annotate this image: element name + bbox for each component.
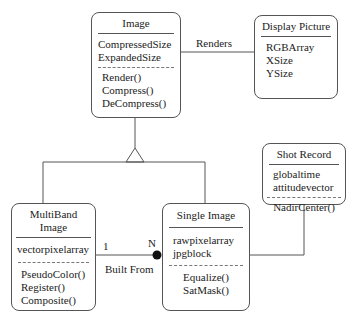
class-image[interactable]: Image CompressedSize ExpandedSize Render… bbox=[91, 12, 181, 118]
class-shot-record-operations: NadirCenter() bbox=[267, 197, 341, 217]
operation: PseudoColor() bbox=[21, 268, 83, 281]
class-display-picture-attributes: RGBArray XSize YSize bbox=[255, 37, 337, 83]
generalization-triangle-icon bbox=[126, 148, 144, 162]
class-multiband-image-title: MultiBand Image bbox=[16, 204, 91, 238]
operation: DeCompress() bbox=[102, 97, 168, 110]
class-single-image-operations: Equalize() SatMask() bbox=[169, 265, 243, 300]
attribute: globaltime bbox=[273, 168, 339, 181]
class-shot-record-title: Shot Record bbox=[269, 144, 339, 165]
aggregation-dot-icon bbox=[153, 251, 162, 260]
class-image-attributes: CompressedSize ExpandedSize bbox=[92, 34, 180, 67]
class-shot-record-attributes: globaltime attitudevector bbox=[263, 165, 345, 197]
attribute: ExpandedSize bbox=[98, 51, 174, 64]
operation: Composite() bbox=[21, 294, 83, 307]
operation: Compress() bbox=[102, 84, 168, 97]
attribute: attitudevector bbox=[273, 181, 339, 194]
operation: Register() bbox=[21, 281, 83, 294]
multiplicity-n-label: N bbox=[148, 237, 156, 249]
operation: NadirCenter() bbox=[267, 201, 341, 214]
attribute: rawpixelarray bbox=[173, 234, 243, 247]
class-image-operations: Render() Compress() DeCompress() bbox=[98, 67, 174, 113]
operation: Equalize() bbox=[169, 271, 243, 284]
attribute: CompressedSize bbox=[98, 38, 174, 51]
multiplicity-one-label: 1 bbox=[103, 240, 109, 252]
class-multiband-image-operations: PseudoColor() Register() Composite() bbox=[18, 262, 89, 310]
attribute: RGBArray bbox=[266, 41, 331, 54]
class-image-title: Image bbox=[98, 13, 174, 34]
class-display-picture-title: Display Picture bbox=[261, 16, 331, 37]
renders-label: Renders bbox=[196, 37, 232, 49]
attribute: vectorpixelarray bbox=[17, 243, 89, 256]
attribute: YSize bbox=[266, 67, 331, 80]
built-from-label: Built From bbox=[105, 263, 154, 275]
operation: SatMask() bbox=[169, 284, 243, 297]
class-single-image-title: Single Image bbox=[169, 204, 243, 228]
class-shot-record[interactable]: Shot Record globaltime attitudevector Na… bbox=[262, 143, 346, 205]
class-single-image[interactable]: Single Image rawpixelarray jpgblock Equa… bbox=[162, 203, 250, 311]
class-single-image-attributes: rawpixelarray jpgblock bbox=[163, 228, 249, 265]
attribute: XSize bbox=[266, 54, 331, 67]
class-display-picture[interactable]: Display Picture RGBArray XSize YSize bbox=[254, 15, 338, 99]
class-multiband-image-attributes: vectorpixelarray bbox=[12, 238, 95, 262]
attribute: jpgblock bbox=[173, 247, 243, 260]
class-multiband-image[interactable]: MultiBand Image vectorpixelarray PseudoC… bbox=[11, 203, 96, 311]
operation: Render() bbox=[102, 71, 168, 84]
